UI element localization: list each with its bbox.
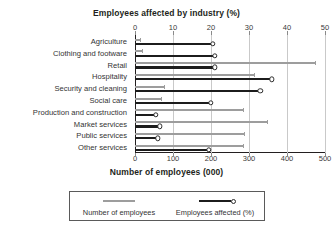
legend-swatch-pct-icon bbox=[199, 200, 231, 202]
marker-employees-affected bbox=[153, 112, 158, 117]
chart-row bbox=[135, 82, 325, 94]
bar-end-cap-count bbox=[161, 97, 162, 101]
chart-row bbox=[135, 59, 325, 71]
bar-number-of-employees bbox=[135, 121, 268, 123]
chart-row bbox=[135, 94, 325, 106]
category-label: Public services bbox=[76, 131, 127, 140]
legend-label-count: Number of employees bbox=[70, 208, 168, 217]
chart-row bbox=[135, 35, 325, 47]
bottom-axis-tick-labels: 0100200300400500 bbox=[135, 154, 325, 165]
chart-row bbox=[135, 118, 325, 130]
bar-end-cap-count bbox=[243, 144, 244, 148]
marker-employees-affected bbox=[157, 124, 162, 129]
tick-mark-top bbox=[287, 31, 288, 35]
bar-employees-affected bbox=[135, 149, 209, 151]
marker-employees-affected bbox=[258, 88, 263, 93]
bar-end-cap-count bbox=[267, 120, 268, 124]
tick-mark-bottom bbox=[135, 153, 136, 157]
category-label: Retail bbox=[108, 60, 127, 69]
gridline bbox=[325, 35, 326, 153]
bar-employees-affected bbox=[135, 55, 215, 57]
tick-mark-bottom bbox=[249, 153, 250, 157]
bar-number-of-employees bbox=[135, 145, 244, 147]
bar-end-cap-count bbox=[244, 132, 245, 136]
tick-mark-top bbox=[325, 31, 326, 35]
tick-mark-bottom bbox=[325, 153, 326, 157]
marker-employees-affected bbox=[210, 41, 215, 46]
tick-mark-top bbox=[135, 31, 136, 35]
tick-mark-top bbox=[249, 31, 250, 35]
legend-marker-circle-icon bbox=[231, 199, 236, 204]
category-label: Clothing and footware bbox=[53, 48, 127, 57]
category-label: Agriculture bbox=[91, 36, 127, 45]
chart-row bbox=[135, 47, 325, 59]
bar-number-of-employees bbox=[135, 98, 162, 100]
tick-mark-bottom bbox=[173, 153, 174, 157]
category-label: Production and construction bbox=[33, 107, 127, 116]
bar-number-of-employees bbox=[135, 133, 245, 135]
chart-row bbox=[135, 141, 325, 153]
bar-number-of-employees bbox=[135, 62, 316, 64]
tick-mark-bottom bbox=[211, 153, 212, 157]
bar-end-cap-count bbox=[164, 85, 165, 89]
category-axis-labels: AgricultureClothing and footwareRetailHo… bbox=[0, 35, 131, 153]
marker-employees-affected bbox=[212, 65, 217, 70]
chart-row bbox=[135, 129, 325, 141]
top-axis-title: Employees affected by industry (%) bbox=[0, 8, 333, 18]
category-label: Other services bbox=[78, 143, 127, 152]
bar-employees-affected bbox=[135, 66, 215, 68]
plot-area bbox=[135, 35, 325, 153]
chart-row bbox=[135, 106, 325, 118]
chart-figure: Employees affected by industry (%) 01020… bbox=[0, 0, 333, 231]
bar-end-cap-count bbox=[142, 49, 143, 53]
bar-employees-affected bbox=[135, 78, 272, 80]
marker-employees-affected bbox=[269, 76, 274, 81]
bar-employees-affected bbox=[135, 102, 211, 104]
chart-legend: Number of employees Employees affected (… bbox=[69, 191, 265, 221]
chart-row bbox=[135, 70, 325, 82]
bar-end-cap-count bbox=[243, 108, 244, 112]
bottom-axis-title: Number of employees (000) bbox=[0, 167, 333, 177]
legend-item-employees-affected: Employees affected (%) bbox=[166, 192, 264, 220]
category-label: Security and cleaning bbox=[54, 84, 127, 93]
marker-employees-affected bbox=[206, 147, 211, 152]
legend-swatch-count-icon bbox=[103, 200, 135, 202]
bar-number-of-employees bbox=[135, 109, 244, 111]
legend-label-pct: Employees affected (%) bbox=[166, 208, 264, 217]
top-axis-tick-labels: 01020304050 bbox=[135, 23, 325, 34]
bar-end-cap-count bbox=[254, 73, 255, 77]
category-label: Hospitality bbox=[92, 72, 127, 81]
category-label: Market services bbox=[74, 119, 127, 128]
tick-mark-top bbox=[211, 31, 212, 35]
bar-number-of-employees bbox=[135, 74, 255, 76]
tick-mark-bottom bbox=[287, 153, 288, 157]
category-label: Social care bbox=[89, 95, 127, 104]
bar-employees-affected bbox=[135, 90, 260, 92]
legend-item-number-of-employees: Number of employees bbox=[70, 192, 168, 220]
bar-end-cap-count bbox=[140, 38, 141, 42]
bar-number-of-employees bbox=[135, 86, 165, 88]
marker-employees-affected bbox=[208, 100, 213, 105]
marker-employees-affected bbox=[212, 53, 217, 58]
marker-employees-affected bbox=[155, 135, 160, 140]
bar-employees-affected bbox=[135, 125, 160, 127]
bar-end-cap-count bbox=[315, 61, 316, 65]
bar-employees-affected bbox=[135, 43, 213, 45]
tick-mark-top bbox=[173, 31, 174, 35]
